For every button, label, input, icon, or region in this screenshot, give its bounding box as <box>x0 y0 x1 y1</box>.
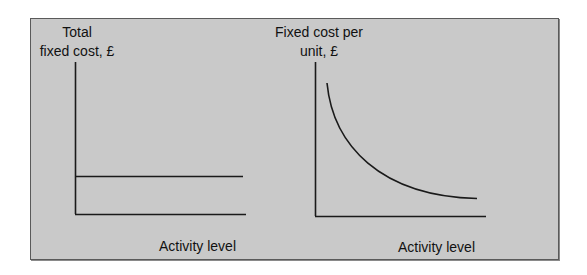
left-y-label-line1: Total <box>62 23 92 42</box>
left-chart <box>75 62 246 215</box>
right-x-label: Activity level <box>398 238 475 257</box>
right-y-label-line2: unit, £ <box>300 42 338 61</box>
left-y-label-line2: fixed cost, £ <box>40 42 115 61</box>
right-chart <box>315 62 486 217</box>
left-x-label: Activity level <box>159 237 236 256</box>
fixed-cost-per-unit-curve <box>327 83 477 199</box>
right-y-label-line1: Fixed cost per <box>275 23 363 42</box>
